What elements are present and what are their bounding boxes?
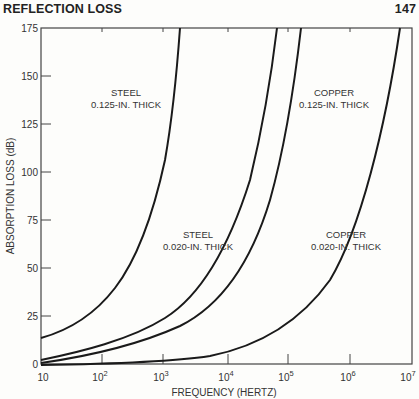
x-tick-label-1e4: 104 xyxy=(218,369,233,383)
x-axis-label: FREQUENCY (HERTZ) xyxy=(171,387,276,398)
label-copper-0020-material: COPPER xyxy=(326,229,366,240)
x-tick-label-1e5: 105 xyxy=(278,369,293,383)
x-tick-label-1e2: 102 xyxy=(92,369,107,383)
y-tick-label: 100 xyxy=(21,167,38,178)
absorption-loss-chart: 0 25 50 75 100 125 150 175 10 102 103 10… xyxy=(0,0,419,399)
curve-copper-0020 xyxy=(41,28,400,365)
y-tick-label: 75 xyxy=(27,215,39,226)
label-copper-0020-thickness: 0.020-IN. THICK xyxy=(311,241,382,252)
y-tick-label: 175 xyxy=(21,23,38,34)
y-axis-label: ABSORPTION LOSS (dB) xyxy=(5,138,16,255)
y-tick-label: 50 xyxy=(27,263,39,274)
y-tick-label: 25 xyxy=(27,311,39,322)
y-ticks xyxy=(41,76,51,316)
plot-frame xyxy=(41,28,412,364)
x-tick-label-10: 10 xyxy=(37,372,49,383)
curve-steel-0125 xyxy=(41,28,180,338)
label-steel-0125-material: STEEL xyxy=(111,87,141,98)
y-tick-label: 0 xyxy=(32,359,38,370)
y-tick-label: 125 xyxy=(21,119,38,130)
curve-steel-0020 xyxy=(41,28,277,360)
x-tick-label-1e7: 107 xyxy=(400,369,415,383)
y-tick-label: 150 xyxy=(21,71,38,82)
label-steel-0125-thickness: 0.125-IN. THICK xyxy=(91,99,162,110)
label-copper-0125-thickness: 0.125-IN. THICK xyxy=(299,99,370,110)
x-tick-label-1e6: 106 xyxy=(340,369,355,383)
label-copper-0125-material: COPPER xyxy=(314,87,354,98)
x-ticks xyxy=(102,28,350,364)
label-steel-0020-material: STEEL xyxy=(183,229,213,240)
x-tick-label-1e3: 103 xyxy=(153,369,168,383)
label-steel-0020-thickness: 0.020-IN. THICK xyxy=(163,241,234,252)
